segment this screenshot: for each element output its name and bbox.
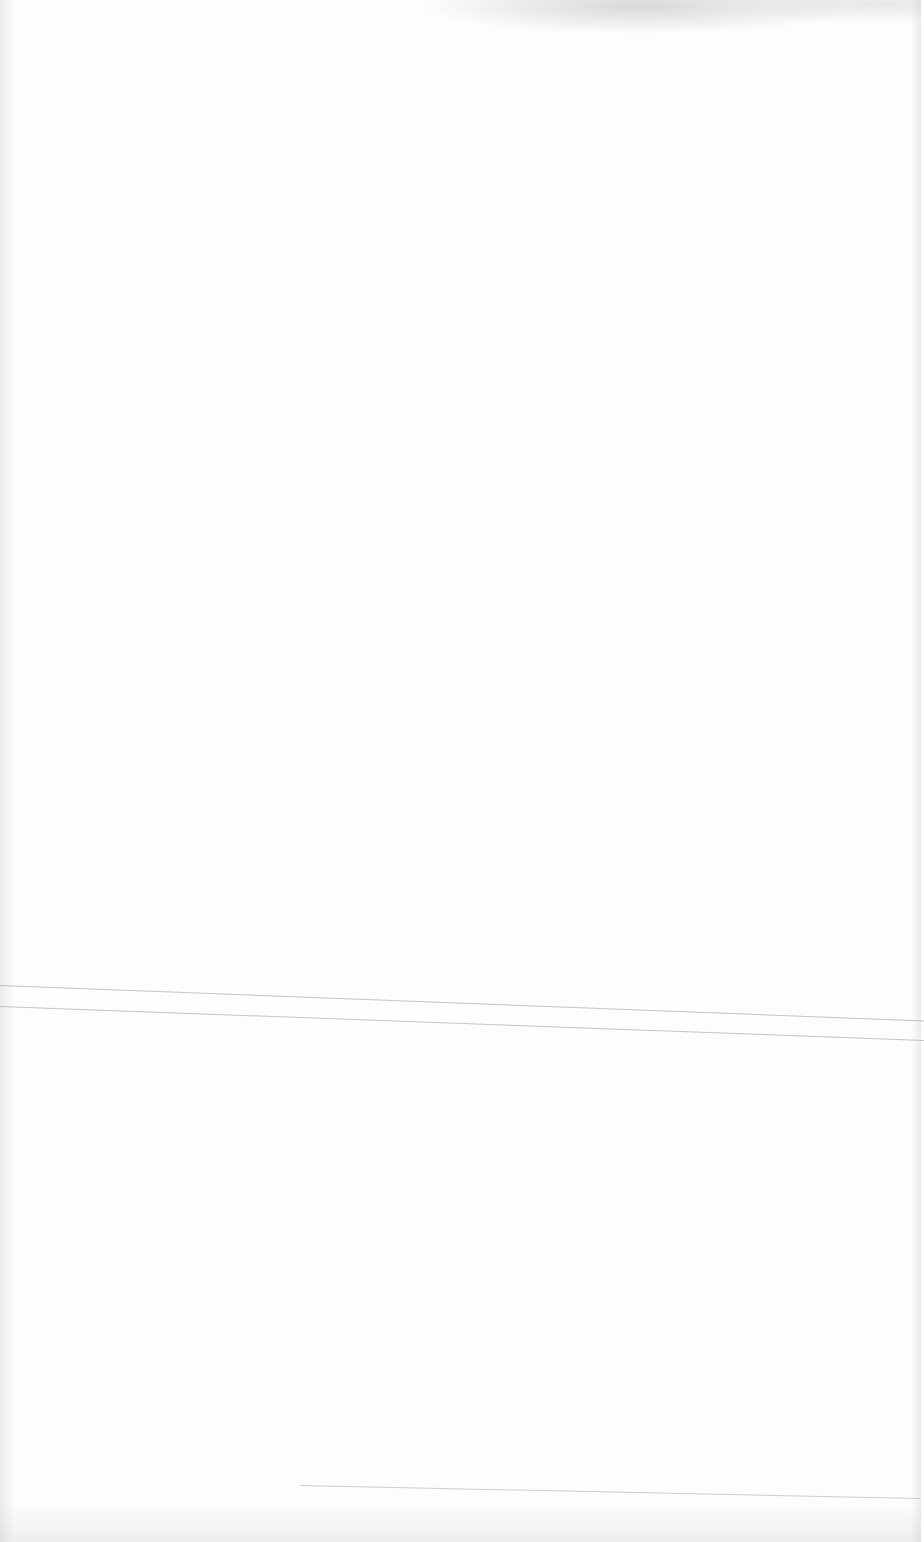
fold-line [0,985,924,1022]
fold-line [300,1485,920,1499]
fold-line [0,1006,924,1041]
